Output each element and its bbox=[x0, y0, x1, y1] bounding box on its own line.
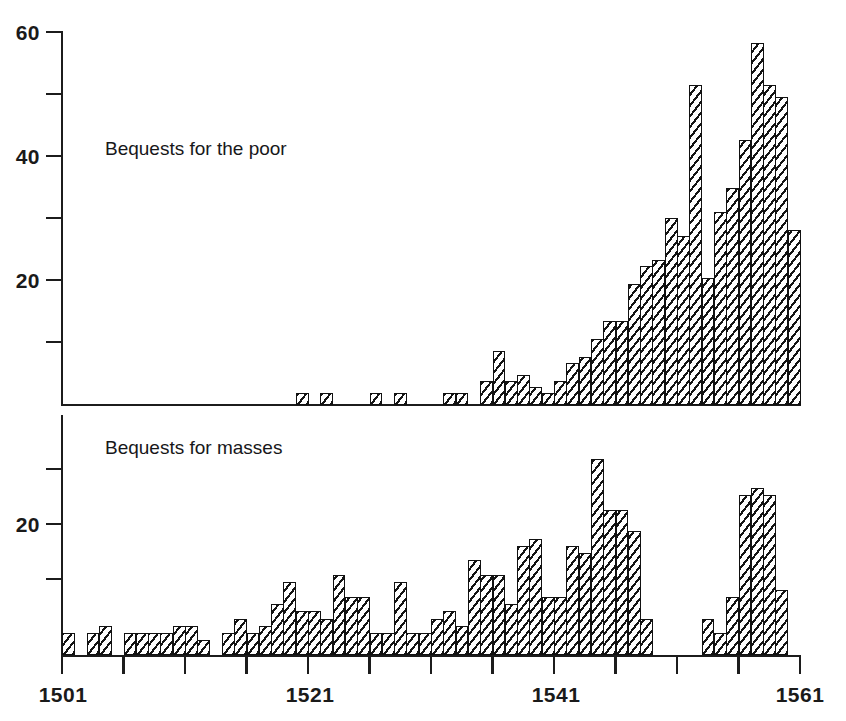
bar bbox=[443, 393, 456, 405]
bar bbox=[579, 553, 592, 655]
bar bbox=[394, 393, 407, 405]
bar bbox=[579, 357, 592, 405]
xtick-label-1501: 1501 bbox=[20, 684, 106, 705]
bar bbox=[542, 597, 555, 655]
bar bbox=[751, 488, 764, 655]
bar bbox=[554, 597, 567, 655]
bar bbox=[370, 393, 383, 405]
bequests-histogram-figure: 60 40 20 Bequests for the poor 20 Beques… bbox=[0, 0, 846, 721]
bar bbox=[345, 597, 358, 655]
bar bbox=[665, 218, 678, 405]
bar bbox=[702, 278, 715, 405]
bar bbox=[628, 284, 641, 405]
bar bbox=[320, 393, 333, 405]
bar bbox=[566, 546, 579, 655]
bar bbox=[616, 510, 629, 655]
xtick-label-1541: 1541 bbox=[513, 684, 599, 705]
bar bbox=[456, 626, 469, 655]
bar bbox=[763, 495, 776, 655]
bar bbox=[357, 597, 370, 655]
xtick-1506 bbox=[122, 657, 124, 674]
bar bbox=[493, 575, 506, 655]
bar bbox=[419, 633, 432, 655]
bar bbox=[480, 575, 493, 655]
bar bbox=[714, 633, 727, 655]
bar bbox=[726, 597, 739, 655]
bar bbox=[320, 619, 333, 655]
bar bbox=[173, 626, 186, 655]
bar bbox=[370, 633, 383, 655]
xtick-1516 bbox=[245, 657, 247, 674]
bar bbox=[689, 85, 702, 405]
xtick-1551 bbox=[676, 657, 678, 674]
xtick-1511 bbox=[184, 657, 186, 674]
bar bbox=[505, 604, 518, 655]
bar bbox=[456, 393, 469, 405]
bar bbox=[640, 266, 653, 405]
bar bbox=[333, 575, 346, 655]
bar bbox=[616, 321, 629, 405]
bar bbox=[739, 140, 752, 405]
bar bbox=[566, 363, 579, 405]
bar bbox=[99, 626, 112, 655]
bar bbox=[382, 633, 395, 655]
xtick-label-1561: 1561 bbox=[757, 684, 843, 705]
bar bbox=[296, 393, 309, 405]
bar bbox=[603, 321, 616, 405]
bar bbox=[443, 611, 456, 655]
bar bbox=[406, 633, 419, 655]
bar bbox=[652, 260, 665, 405]
xtick-1501 bbox=[61, 657, 63, 674]
bar bbox=[468, 560, 481, 655]
bar bbox=[136, 633, 149, 655]
bar bbox=[591, 459, 604, 655]
bar bbox=[148, 633, 161, 655]
bar bbox=[554, 381, 567, 405]
bar bbox=[517, 546, 530, 655]
bar bbox=[739, 495, 752, 655]
bar bbox=[197, 640, 210, 655]
bar bbox=[493, 351, 506, 405]
bar bbox=[394, 582, 407, 655]
xtick-1541 bbox=[553, 657, 555, 674]
bar bbox=[788, 230, 801, 405]
bar bbox=[259, 626, 272, 655]
xtick-1536 bbox=[491, 657, 493, 674]
xtick-1526 bbox=[368, 657, 370, 674]
bar bbox=[751, 43, 764, 405]
bar bbox=[763, 85, 776, 405]
bar bbox=[529, 539, 542, 655]
bar bbox=[222, 633, 235, 655]
bar bbox=[702, 619, 715, 655]
xtick-1561 bbox=[799, 657, 801, 674]
bar bbox=[529, 387, 542, 405]
bar bbox=[247, 633, 260, 655]
bar bbox=[296, 611, 309, 655]
bar bbox=[775, 97, 788, 405]
bar bbox=[714, 212, 727, 405]
xtick-1556 bbox=[737, 657, 739, 674]
bar bbox=[628, 531, 641, 655]
xtick-label-1521: 1521 bbox=[267, 684, 353, 705]
bar bbox=[124, 633, 137, 655]
bar bbox=[677, 236, 690, 405]
bar bbox=[431, 619, 444, 655]
bar bbox=[185, 626, 198, 655]
bar bbox=[87, 633, 100, 655]
bar bbox=[775, 590, 788, 655]
bar bbox=[726, 188, 739, 405]
bar bbox=[271, 604, 284, 655]
xtick-1521 bbox=[307, 657, 309, 674]
bar bbox=[62, 633, 75, 655]
bar bbox=[505, 381, 518, 405]
bar bbox=[160, 633, 173, 655]
bar bbox=[591, 339, 604, 405]
bar bbox=[517, 375, 530, 405]
bar bbox=[283, 582, 296, 655]
bar bbox=[640, 619, 653, 655]
bar bbox=[234, 619, 247, 655]
xtick-1531 bbox=[430, 657, 432, 674]
bar bbox=[480, 381, 493, 405]
bar bbox=[603, 510, 616, 655]
bar bbox=[308, 611, 321, 655]
